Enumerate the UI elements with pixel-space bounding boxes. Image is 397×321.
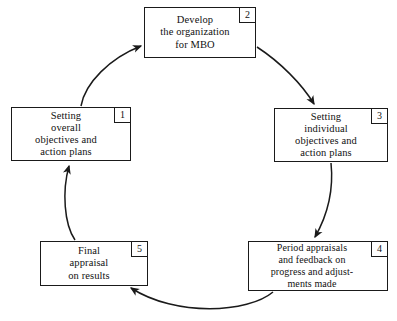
arrow-path-4-to-5 — [131, 288, 273, 309]
node-label: Final appraisal on results — [64, 245, 124, 282]
process-node-setting-individual-objectives[interactable]: Setting individual objectives and action… — [274, 108, 388, 162]
node-label: Develop the organization for MBO — [156, 14, 243, 51]
node-number-badge: 4 — [371, 241, 388, 257]
arrow-path-1-to-2 — [81, 46, 141, 106]
process-node-final-appraisal[interactable]: Final appraisal on results 5 — [40, 241, 148, 286]
node-label: Period appraisals and feedback on progre… — [267, 242, 370, 289]
arrow-path-5-to-1 — [65, 166, 75, 240]
arrow-path-2-to-3 — [257, 47, 314, 104]
process-node-setting-overall-objectives[interactable]: Setting overall objectives and action pl… — [11, 107, 131, 161]
node-label: Setting overall objectives and action pl… — [31, 110, 111, 159]
diagram-canvas: Setting overall objectives and action pl… — [0, 0, 397, 321]
arrow-path-3-to-4 — [315, 163, 332, 237]
node-number-badge: 1 — [114, 107, 131, 123]
process-node-develop-organization[interactable]: Develop the organization for MBO 2 — [144, 7, 256, 58]
node-number-badge: 3 — [371, 108, 388, 124]
node-number-badge: 5 — [131, 241, 148, 257]
process-node-period-appraisals[interactable]: Period appraisals and feedback on progre… — [248, 241, 388, 291]
node-label: Setting individual objectives and action… — [291, 111, 371, 160]
node-number-badge: 2 — [239, 7, 256, 23]
